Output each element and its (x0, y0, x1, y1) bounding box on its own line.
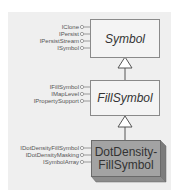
class-symbol: Symbol (90, 19, 160, 58)
class-name-line1: DotDensity- (95, 146, 158, 159)
interface-label: ISymbolArray (43, 159, 79, 166)
interface-label: IPersist (59, 31, 79, 38)
interface-label: ISymbol (57, 45, 79, 52)
interface-label: IMapLevel (51, 91, 79, 98)
interface-label: IPersistStream (40, 38, 79, 45)
inheritance-arrow-icon (118, 57, 132, 68)
interface-label: IFillSymbol (50, 84, 79, 91)
class-name: Symbol (105, 32, 145, 46)
interface-label: IDotDensityMasking (26, 152, 79, 159)
interface-label: IDotDensityFillSymbol (20, 145, 79, 152)
interface-label: IClone (62, 24, 79, 31)
interface-label: IPropertySupport (34, 98, 79, 105)
class-name-line2: FillSymbol (98, 159, 153, 172)
inheritance-arrow-icon (118, 116, 132, 127)
class-name: FillSymbol (97, 91, 152, 105)
class-dotdensityfillsymbol: DotDensity- FillSymbol (91, 140, 161, 177)
class-fillsymbol: FillSymbol (90, 80, 160, 116)
